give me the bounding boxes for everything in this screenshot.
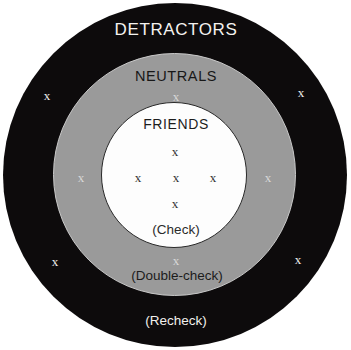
respondent-marker-detractors: x: [44, 89, 51, 102]
neutrals-zone-label: NEUTRALS: [135, 69, 217, 84]
respondent-marker-friends: x: [172, 145, 179, 158]
respondent-marker-detractors: x: [295, 253, 302, 266]
respondent-marker-detractors: x: [52, 255, 59, 268]
friends-zone-label: FRIENDS: [143, 117, 209, 131]
respondent-marker-neutrals: x: [78, 171, 85, 184]
respondent-marker-neutrals: x: [173, 254, 180, 267]
respondent-marker-friends: x: [135, 171, 142, 184]
respondent-marker-friends: x: [210, 171, 217, 184]
neutrals-action-label: (Double-check): [131, 269, 223, 283]
diagram-canvas: DETRACTORS NEUTRALS FRIENDS (Check) (Dou…: [0, 0, 351, 350]
respondent-marker-friends: x: [173, 171, 180, 184]
respondent-marker-neutrals: x: [265, 171, 272, 184]
respondent-marker-neutrals: x: [173, 90, 180, 103]
detractors-zone-label: DETRACTORS: [115, 21, 238, 38]
detractors-action-label: (Recheck): [145, 314, 207, 328]
friends-action-label: (Check): [152, 223, 199, 237]
respondent-marker-detractors: x: [298, 86, 305, 99]
respondent-marker-friends: x: [172, 197, 179, 210]
